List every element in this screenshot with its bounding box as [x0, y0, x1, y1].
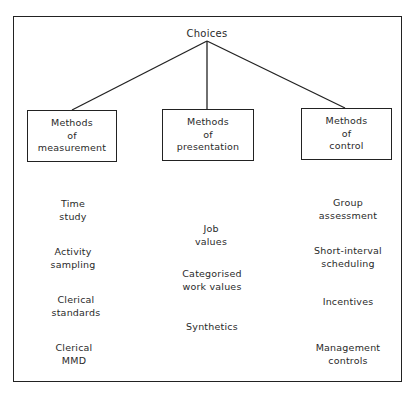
branch-title-line: of	[326, 128, 368, 141]
branch-box-control: Methods of control	[301, 108, 392, 160]
branch-box-measurement: Methods of measurement	[27, 110, 117, 162]
control-item-management-controls: Management controls	[293, 342, 403, 367]
control-item-group-assessment: Group assessment	[293, 197, 403, 222]
root-node-choices: Choices	[167, 28, 247, 39]
branch-title-line: Methods	[326, 115, 368, 128]
branch-title-line: presentation	[177, 141, 240, 154]
measurement-item-activity-sampling: Activity sampling	[18, 246, 128, 271]
branch-title-line: of	[177, 129, 240, 142]
branch-title-line: of	[38, 130, 106, 143]
control-item-incentives: Incentives	[293, 296, 403, 309]
presentation-item-synthetics: Synthetics	[157, 321, 267, 334]
branch-title-line: Methods	[38, 117, 106, 130]
presentation-item-job-values: Job values	[156, 223, 266, 248]
control-item-short-interval-scheduling: Short-interval scheduling	[293, 245, 403, 270]
branch-title-line: measurement	[38, 142, 106, 155]
measurement-item-time-study: Time study	[18, 198, 128, 223]
branch-title-line: Methods	[177, 116, 240, 129]
measurement-item-clerical-standards: Clerical standards	[21, 294, 131, 319]
presentation-item-categorised-work-values: Categorised work values	[157, 268, 267, 293]
branch-title-line: control	[326, 140, 368, 153]
branch-box-presentation: Methods of presentation	[162, 109, 254, 161]
measurement-item-clerical-mmd: Clerical MMD	[19, 342, 129, 367]
